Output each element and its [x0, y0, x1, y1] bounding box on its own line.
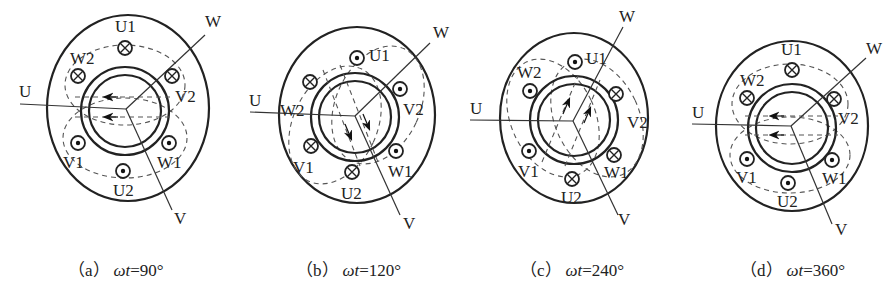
label-v2: V2: [627, 113, 648, 132]
label-u2: U2: [777, 192, 798, 211]
slot-w1: [825, 153, 839, 167]
caption-a-var: ωt: [114, 261, 132, 280]
slot-v2: [165, 69, 179, 83]
slot-v1: [71, 136, 85, 150]
dot-icon: [528, 89, 532, 93]
rotating-field-diagram: U1 W2 V2 V1 W1 U2 U W V U1 W2 V2 V1 W1 U…: [0, 0, 884, 299]
axis-label-w: W: [619, 7, 636, 26]
slot-u1: [350, 51, 364, 65]
axis-label-w: W: [205, 12, 222, 31]
label-v1: V1: [293, 158, 314, 177]
flux-loop-left: [271, 51, 400, 199]
panel-d: U1 W2 V2 V1 W1 U2 U W V: [692, 39, 883, 239]
slot-v1: [304, 139, 318, 153]
panel-c: U1 W2 V2 V1 W1 U2 U W V: [470, 7, 661, 229]
dot-icon: [394, 149, 398, 153]
slot-w1: [389, 144, 403, 158]
label-u1: U1: [586, 49, 607, 68]
slot-u2: [345, 165, 359, 179]
axis-label-u: U: [19, 82, 31, 101]
axis-label-w: W: [866, 39, 883, 58]
slot-v1: [740, 152, 754, 166]
axis-label-v: V: [618, 210, 631, 229]
dot-icon: [745, 157, 749, 161]
slot-u2: [781, 176, 795, 190]
field-line: [542, 76, 578, 162]
slot-w2: [71, 69, 85, 83]
label-w1: W1: [822, 169, 847, 188]
caption-d-var: ωt: [787, 261, 805, 280]
label-v1: V1: [63, 153, 84, 172]
field-arrow-icon: [563, 102, 568, 114]
dot-icon: [76, 141, 80, 145]
dot-icon: [167, 141, 171, 145]
caption-a: （a）ωt=90°: [68, 261, 164, 280]
caption-d-prefix: （d）: [740, 261, 783, 280]
axis-label-u: U: [692, 103, 704, 122]
dot-icon: [527, 149, 531, 153]
label-u2: U2: [561, 188, 582, 207]
caption-b: （b）ωt=120°: [296, 261, 401, 280]
label-w2: W2: [280, 101, 305, 120]
axis-label-v: V: [403, 214, 416, 233]
slot-v2: [827, 92, 841, 106]
label-u2: U2: [113, 181, 134, 200]
label-w1: W1: [604, 163, 629, 182]
label-v1: V1: [736, 168, 757, 187]
label-u1: U1: [781, 40, 802, 59]
caption-b-value: =120°: [359, 261, 401, 280]
slot-w1: [607, 148, 621, 162]
caption-d: （d）ωt=360°: [740, 261, 845, 280]
caption-a-prefix: （a）: [68, 261, 110, 280]
label-w2: W2: [740, 71, 765, 90]
axis-u: [470, 120, 573, 121]
slot-v1: [522, 144, 536, 158]
caption-d-value: =360°: [803, 261, 845, 280]
axis-label-v: V: [835, 220, 848, 239]
label-w2: W2: [517, 63, 542, 82]
field-line: [565, 80, 600, 166]
slot-u1: [118, 41, 132, 55]
caption-b-var: ωt: [343, 261, 361, 280]
label-v1: V1: [518, 162, 539, 181]
dot-icon: [830, 158, 834, 162]
label-v2: V2: [403, 100, 424, 119]
caption-a-value: =90°: [130, 261, 163, 280]
dot-icon: [398, 87, 402, 91]
slot-w2: [523, 84, 537, 98]
slot-u1: [568, 55, 582, 69]
svg-text:（d）ωt=360°: （d）ωt=360°: [740, 261, 845, 280]
slot-w2: [740, 91, 754, 105]
caption-c-var: ωt: [566, 261, 584, 280]
axis-label-u: U: [470, 99, 482, 118]
dot-icon: [786, 181, 790, 185]
axis-label-v: V: [174, 209, 187, 228]
svg-text:（a）ωt=90°: （a）ωt=90°: [68, 261, 164, 280]
label-v2: V2: [838, 109, 859, 128]
caption-c: （c）ωt=240°: [520, 261, 624, 280]
slot-u1: [785, 63, 799, 77]
caption-b-prefix: （b）: [296, 261, 339, 280]
label-w2: W2: [70, 49, 95, 68]
label-u1: U1: [369, 46, 390, 65]
slot-w2: [303, 75, 317, 89]
axis-label-w: W: [433, 23, 450, 42]
label-w1: W1: [157, 153, 182, 172]
caption-c-value: =240°: [582, 261, 624, 280]
slot-v2: [393, 82, 407, 96]
slot-w1: [162, 136, 176, 150]
slot-u2: [116, 164, 130, 178]
slot-v2: [609, 87, 623, 101]
label-v2: V2: [175, 87, 196, 106]
dot-icon: [573, 60, 577, 64]
rotor-outer-ring: [81, 67, 169, 155]
dot-icon: [121, 169, 125, 173]
dot-icon: [355, 56, 359, 60]
label-u2: U2: [341, 184, 362, 203]
svg-text:（b）ωt=120°: （b）ωt=120°: [296, 261, 401, 280]
caption-c-prefix: （c）: [520, 261, 562, 280]
slot-u2: [565, 172, 579, 186]
svg-text:（c）ωt=240°: （c）ωt=240°: [520, 261, 624, 280]
axis-label-u: U: [249, 91, 261, 110]
label-u1: U1: [115, 17, 136, 36]
